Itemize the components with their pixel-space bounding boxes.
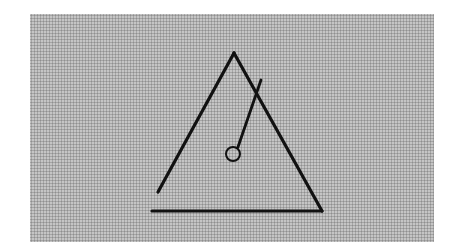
triangle-left-side bbox=[158, 53, 234, 192]
triangle-right-side bbox=[234, 53, 322, 211]
triangle-pendulum-diagram bbox=[0, 0, 459, 248]
pendulum-rod bbox=[238, 80, 261, 147]
pendulum-bob-icon bbox=[226, 147, 240, 161]
